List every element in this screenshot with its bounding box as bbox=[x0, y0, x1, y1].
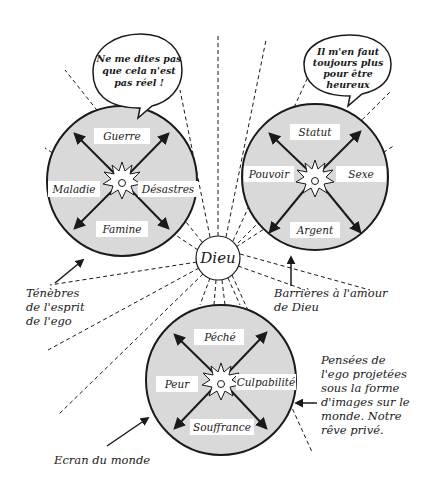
bubble-right-line-3: pour être bbox=[323, 68, 373, 79]
caption-barrieres: Barrières à l'amour de Dieu bbox=[273, 286, 391, 314]
dieu-label: Dieu bbox=[199, 249, 235, 267]
bubble-left-line-3: pas réel ! bbox=[114, 77, 164, 88]
label-pouvoir: Pouvoir bbox=[248, 168, 290, 180]
speech-bubble-left bbox=[93, 34, 182, 118]
caption-pensees: Pensées de l'ego projetées sous la forme… bbox=[320, 353, 413, 437]
caption-tenebres: Ténèbres de l'esprit de l'ego bbox=[26, 286, 88, 328]
label-desastres: Désastres bbox=[141, 183, 195, 195]
bubble-right-line-4: heureux bbox=[326, 79, 370, 90]
label-souffrance: Souffrance bbox=[193, 421, 251, 433]
diagram-canvas: Guerre Maladie Désastres Famine Statut P… bbox=[0, 0, 432, 492]
label-statut: Statut bbox=[299, 126, 333, 138]
label-maladie: Maladie bbox=[52, 183, 96, 195]
arrow-ecran bbox=[107, 418, 148, 446]
label-argent: Argent bbox=[296, 224, 334, 236]
label-culpabilite: Culpabilité bbox=[237, 376, 295, 388]
bubble-right-line-2: toujours plus bbox=[313, 57, 384, 68]
label-sexe: Sexe bbox=[348, 168, 374, 180]
bubble-left-line-2: que cela n'est bbox=[102, 65, 176, 76]
arrow-tenebres bbox=[55, 260, 83, 283]
caption-ecran: Ecran du monde bbox=[53, 453, 150, 467]
label-peche: Péché bbox=[203, 331, 236, 343]
bubble-right-line-1: Il m'en faut bbox=[316, 46, 380, 57]
label-famine: Famine bbox=[101, 223, 141, 235]
label-peur: Peur bbox=[164, 378, 191, 390]
label-guerre: Guerre bbox=[103, 130, 141, 142]
bubble-left-line-1: Ne me dites pas bbox=[96, 53, 183, 64]
